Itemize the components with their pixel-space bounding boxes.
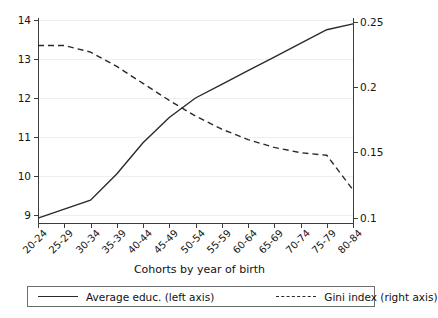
- x-axis-title: Cohorts by year of birth: [0, 263, 399, 276]
- series-line-gini-index: [38, 46, 353, 190]
- legend-entry-gini-index: Gini index (right axis): [276, 291, 437, 303]
- legend-label: Gini index (right axis): [324, 291, 437, 303]
- legend-solid-line-icon: [38, 296, 78, 297]
- legend-label: Average educ. (left axis): [86, 291, 214, 303]
- chart-legend: Average educ. (left axis) Gini index (ri…: [27, 286, 375, 307]
- legend-dashed-line-icon: [276, 296, 316, 297]
- legend-entry-average-educ: Average educ. (left axis): [38, 291, 214, 303]
- series-line-average-educ: [38, 24, 353, 218]
